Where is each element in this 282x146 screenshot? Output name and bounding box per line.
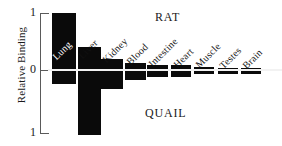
bar-quail-kidney bbox=[101, 71, 123, 89]
bar-quail-intestine bbox=[147, 71, 168, 77]
bar-group-blood bbox=[125, 13, 146, 134]
bar-quail-brain bbox=[241, 71, 261, 74]
bar-group-brain bbox=[241, 13, 261, 134]
y-axis-tick-label-bottom: 1 bbox=[22, 125, 36, 140]
relative-binding-bar-chart: Relative Binding 1 0 1 LungLiverKidneyBl… bbox=[0, 0, 282, 146]
y-axis-spine bbox=[40, 13, 41, 134]
annotation-rat: RAT bbox=[155, 10, 180, 25]
bar-quail-heart bbox=[171, 71, 191, 77]
bar-quail-liver bbox=[78, 71, 101, 135]
bar-quail-blood bbox=[125, 71, 146, 80]
bar-quail-testes bbox=[218, 71, 238, 74]
bar-group-muscle bbox=[194, 13, 214, 134]
y-axis-tick-label-zero: 0 bbox=[22, 62, 36, 77]
annotation-quail: QUAIL bbox=[145, 106, 186, 121]
bar-group-liver bbox=[78, 13, 101, 134]
bar-group-kidney bbox=[101, 13, 123, 134]
bar-group-lung bbox=[52, 13, 76, 134]
bar-quail-muscle bbox=[194, 71, 214, 74]
bar-quail-lung bbox=[52, 71, 76, 84]
bar-group-testes bbox=[218, 13, 238, 134]
y-axis-tick-label-top: 1 bbox=[22, 5, 36, 20]
